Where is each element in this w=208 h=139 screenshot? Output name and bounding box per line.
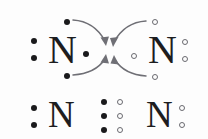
electron-bottom-right-lone-pair-lower [179,122,185,128]
electron-right-lone-pair-lower [182,56,188,62]
atom-right-nitrogen-top: N [148,30,177,70]
arrow-bottom-right-to-center [111,55,147,76]
atom-left-nitrogen-bottom: N [48,96,75,133]
arrow-top-right-to-center [110,21,146,47]
electron-bottom-left-lone-pair-upper [31,105,37,111]
bond-electron-filled-bottom [101,127,107,133]
electron-left-lone-pair-lower [31,55,37,61]
electron-bottom-right-lone-pair-upper [179,105,185,111]
electron-right-lone-pair-upper [182,39,188,45]
electron-right-unpaired-left [131,53,137,59]
arrow-top-left-to-center [73,20,109,46]
lewis-structure-figure: N N N N [0,0,208,139]
atom-left-nitrogen-top: N [48,30,77,70]
bond-electron-open-top [117,99,123,105]
electron-left-unpaired-top [64,19,70,25]
electron-right-unpaired-bottom [152,74,158,80]
bond-electron-filled-middle [101,113,107,119]
bond-electron-open-bottom [117,127,123,133]
bond-electron-filled-top [101,99,107,105]
electron-left-unpaired-right [83,51,89,57]
electron-left-unpaired-bottom [64,73,70,79]
electron-right-unpaired-top [152,19,158,25]
electron-bottom-left-lone-pair-lower [31,122,37,128]
atom-right-nitrogen-bottom: N [146,96,173,133]
electron-left-lone-pair-upper [31,38,37,44]
bond-electron-open-middle [117,113,123,119]
arrow-bottom-left-to-center [73,54,109,75]
